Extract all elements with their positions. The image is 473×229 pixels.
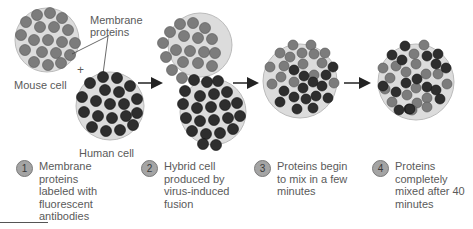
step-number-badge: 1 bbox=[16, 160, 33, 177]
hybrid-cell bbox=[158, 13, 247, 151]
plus-sign: + bbox=[77, 64, 84, 76]
mouse-cell-label: Mouse cell bbox=[14, 79, 67, 91]
step-description: Proteins completely mixed after 40 minut… bbox=[395, 160, 467, 210]
membrane-proteins-label: Membrane proteins bbox=[90, 14, 150, 38]
step-4: 4 Proteins completely mixed after 40 min… bbox=[372, 160, 467, 210]
step-1: 1 Membrane proteins labeled with fluores… bbox=[16, 160, 111, 223]
step-3: 3 Proteins begin to mix in a few minutes bbox=[254, 160, 349, 198]
human-cell bbox=[76, 72, 144, 141]
partially-mixed-cell bbox=[263, 40, 339, 118]
step-number-badge: 2 bbox=[141, 160, 158, 177]
step-description: Hybrid cell produced by virus-induced fu… bbox=[164, 160, 236, 210]
fully-mixed-cell bbox=[378, 40, 454, 120]
mouse-cell bbox=[15, 8, 81, 73]
step-description: Proteins begin to mix in a few minutes bbox=[277, 160, 349, 198]
step-number-badge: 4 bbox=[372, 160, 389, 177]
step-description: Membrane proteins labeled with fluoresce… bbox=[39, 160, 111, 223]
step-2: 2 Hybrid cell produced by virus-induced … bbox=[141, 160, 236, 210]
step-number-badge: 3 bbox=[254, 160, 271, 177]
divider bbox=[0, 222, 48, 223]
human-cell-label: Human cell bbox=[79, 147, 134, 159]
